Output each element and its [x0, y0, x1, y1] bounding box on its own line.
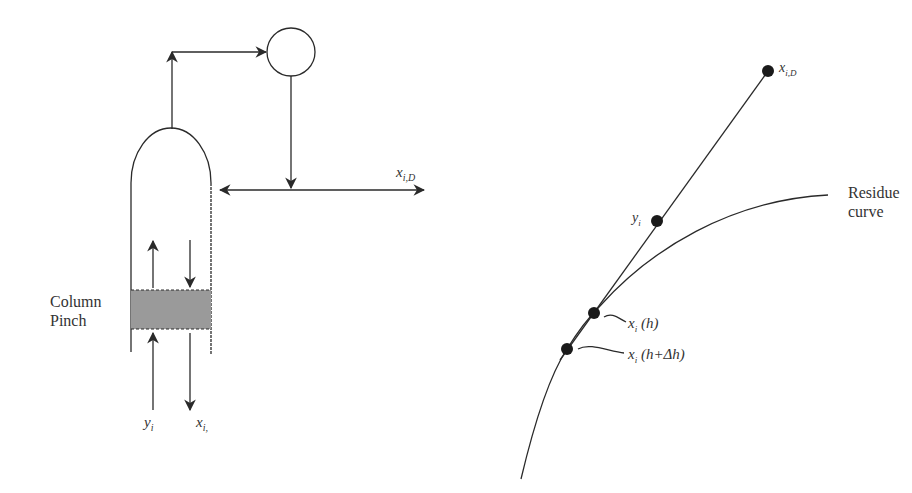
distillate-point-label: xi,D [778, 60, 797, 78]
condenser-icon [267, 28, 315, 76]
column-pinch-label-2: Pinch [50, 312, 86, 329]
distillate-label: xi,D [395, 164, 416, 183]
residue-curve [521, 195, 828, 479]
column-schematic: xi,D Column Pinch yi xi, [50, 28, 424, 433]
residue-curve-label-1: Residue [848, 184, 900, 201]
liquid-out-label: xi, [195, 414, 208, 433]
x-h-label: xi (h) [627, 315, 658, 334]
leader-x-h-dh [578, 347, 624, 353]
diagram-canvas: xi,D Column Pinch yi xi, xi,D yi [0, 0, 912, 493]
vapor-in-label: yi [142, 414, 154, 433]
point-vapor [651, 215, 663, 227]
residue-curve-label-2: curve [848, 203, 884, 220]
point-distillate [762, 65, 774, 77]
point-x-h-dh [561, 343, 573, 355]
x-h-dh-label: xi (h+Δh) [627, 346, 685, 365]
vapor-point-label: yi [630, 210, 641, 228]
point-x-h [588, 307, 600, 319]
column-dome [131, 128, 211, 183]
column-pinch-label-1: Column [50, 293, 102, 310]
residue-curve-diagram: xi,D yi xi (h) xi (h+Δh) Residue curve [521, 60, 900, 479]
leader-x-h [604, 315, 626, 322]
column-pinch-zone [131, 290, 211, 329]
